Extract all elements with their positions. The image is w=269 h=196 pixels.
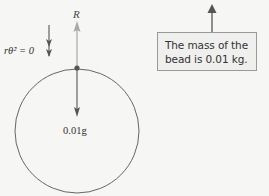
weight-label: 0.01g: [63, 125, 87, 136]
bead: [74, 65, 79, 70]
callout-line-2: bead is 0.01 kg.: [165, 52, 256, 66]
mass-callout-box: The mass of the bead is 0.01 kg.: [157, 32, 257, 71]
reaction-arrow: [74, 21, 81, 68]
reaction-label: R: [72, 8, 80, 20]
callout-line-1: The mass of the: [165, 38, 256, 52]
bead-on-hoop-diagram: R rθ̇² = 0 0.01g: [0, 0, 269, 196]
callout-arrow: [208, 4, 217, 32]
acceleration-arrow: [46, 25, 52, 57]
weight-arrow: [74, 68, 80, 117]
centripetal-term-label: rθ̇² = 0: [4, 45, 35, 56]
